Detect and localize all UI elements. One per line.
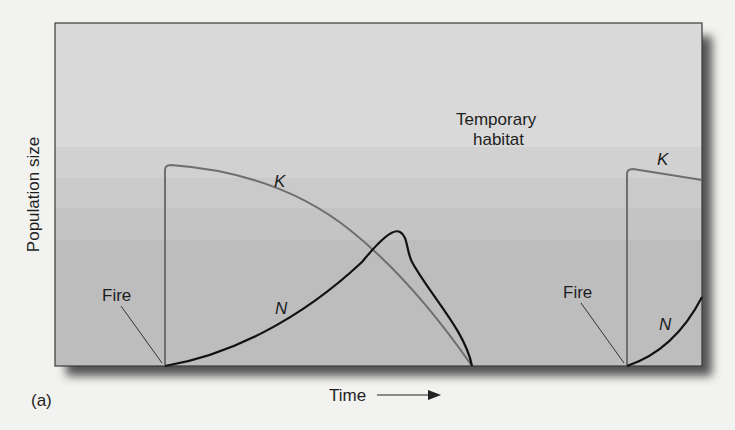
k-curve-label-2: K bbox=[657, 150, 668, 169]
n-curve-label-2: N bbox=[659, 315, 671, 334]
n-curve-label: N bbox=[275, 299, 287, 318]
fire-label: Fire bbox=[102, 286, 131, 305]
fire-label-2: Fire bbox=[563, 283, 592, 302]
figure: Population size Temporary habitat K N K … bbox=[0, 0, 735, 430]
panel-label: (a) bbox=[31, 391, 52, 410]
x-axis-label: Time bbox=[329, 386, 366, 405]
k-curve-label: K bbox=[274, 172, 285, 191]
habitat-label-line2: habitat bbox=[473, 130, 524, 149]
habitat-label-line1: Temporary bbox=[456, 110, 536, 129]
y-axis-label: Population size bbox=[24, 130, 43, 260]
chart-svg bbox=[0, 0, 735, 430]
habitat-bands bbox=[55, 23, 702, 366]
time-arrow-icon bbox=[428, 390, 441, 400]
